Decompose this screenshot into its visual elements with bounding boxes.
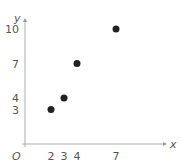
y-tick-label: 7 (12, 58, 19, 71)
data-point (113, 26, 120, 33)
y-axis-arrow-icon (23, 18, 27, 22)
x-tick-label: 2 (48, 150, 55, 163)
x-tick-label: 3 (61, 150, 68, 163)
y-tick-label: 4 (12, 92, 19, 105)
data-point (48, 106, 55, 113)
x-tick-label: 4 (74, 150, 81, 163)
x-axis-arrow-icon (163, 142, 167, 146)
scatter-chart: xyO234734710 (0, 0, 181, 167)
y-tick-label: 3 (12, 104, 19, 117)
origin-label: O (12, 150, 21, 163)
x-tick-label: 7 (113, 150, 120, 163)
data-point (74, 60, 81, 67)
x-axis-label: x (169, 138, 177, 151)
y-tick-label: 10 (5, 23, 19, 36)
data-point (61, 95, 68, 102)
